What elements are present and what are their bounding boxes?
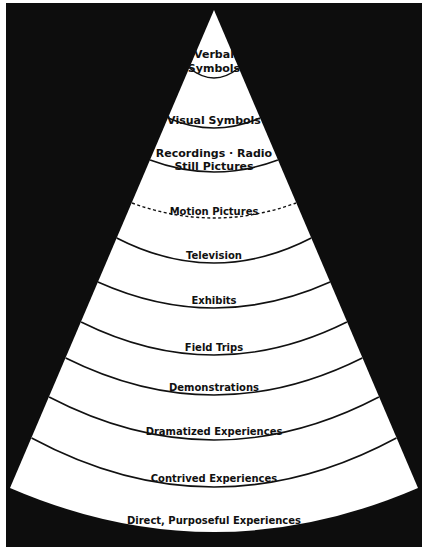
level-direct-purposeful-experiences: Direct, Purposeful Experiences xyxy=(127,515,301,526)
level-label: Motion Pictures xyxy=(170,206,259,217)
level-dramatized-experiences: Dramatized Experiences xyxy=(146,426,283,437)
level-label: Contrived Experiences xyxy=(151,473,278,484)
level-motion-pictures: Motion Pictures xyxy=(170,206,259,217)
level-demonstrations: Demonstrations xyxy=(169,382,259,393)
level-label: Recordings · Radio xyxy=(156,147,273,160)
level-label: Still Pictures xyxy=(174,160,254,173)
level-visual-symbols: Visual Symbols xyxy=(167,114,261,127)
level-label: Field Trips xyxy=(185,342,243,353)
level-contrived-experiences: Contrived Experiences xyxy=(151,473,278,484)
cone-shape xyxy=(10,10,418,532)
level-label: Verbal xyxy=(194,48,234,61)
level-exhibits: Exhibits xyxy=(191,295,236,306)
level-label: Television xyxy=(186,250,242,261)
level-field-trips: Field Trips xyxy=(185,342,243,353)
cone-diagram: Verbal Symbols Visual Symbols Recordings… xyxy=(0,0,428,560)
level-label: Dramatized Experiences xyxy=(146,426,283,437)
level-label: Direct, Purposeful Experiences xyxy=(127,515,301,526)
level-label: Demonstrations xyxy=(169,382,259,393)
level-verbal-symbols: Verbal Symbols xyxy=(188,48,241,75)
level-label: Exhibits xyxy=(191,295,236,306)
level-television: Television xyxy=(186,250,242,261)
level-label: Symbols xyxy=(188,62,241,75)
level-label: Visual Symbols xyxy=(167,114,261,127)
